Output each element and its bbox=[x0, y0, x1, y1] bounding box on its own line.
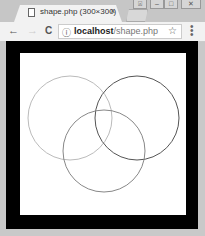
close-icon: ✕ bbox=[182, 0, 200, 8]
circle-medium bbox=[63, 110, 145, 192]
forward-icon[interactable]: → bbox=[27, 24, 38, 36]
back-icon[interactable]: ← bbox=[8, 24, 19, 36]
address-bar[interactable]: ⓘ localhost/shape.php ☆ bbox=[58, 24, 182, 39]
reload-icon[interactable]: C bbox=[45, 25, 52, 36]
new-tab-button[interactable] bbox=[126, 9, 148, 22]
circles-svg bbox=[20, 53, 186, 215]
tab-title: shape.php (300×300) bbox=[40, 7, 116, 16]
browser-toolbar: ← → C ⓘ localhost/shape.php ☆ ••• bbox=[0, 22, 205, 42]
url-text[interactable]: localhost/shape.php bbox=[74, 26, 158, 36]
page-icon bbox=[28, 8, 35, 17]
close-button[interactable]: ✕ bbox=[181, 0, 201, 9]
tab-shape-php[interactable]: shape.php (300×300) × bbox=[14, 5, 122, 22]
title-bar: shape.php (300×300) × ⍓ – □ ✕ bbox=[0, 0, 205, 22]
page-viewport bbox=[6, 41, 198, 229]
minimize-button[interactable]: – bbox=[150, 0, 164, 9]
circle-light bbox=[28, 76, 112, 160]
url-host: localhost bbox=[74, 26, 114, 36]
user-button[interactable]: ⍓ bbox=[133, 0, 147, 9]
bookmark-star-icon[interactable]: ☆ bbox=[168, 25, 177, 36]
tab-close-icon[interactable]: × bbox=[110, 6, 115, 16]
maximize-icon: □ bbox=[165, 0, 177, 8]
minimize-icon: – bbox=[151, 0, 163, 8]
user-icon: ⍓ bbox=[134, 0, 146, 8]
drawing-canvas bbox=[20, 53, 186, 215]
info-icon[interactable]: ⓘ bbox=[62, 26, 71, 39]
url-path: /shape.php bbox=[114, 26, 159, 36]
circle-dark bbox=[95, 76, 179, 160]
menu-icon[interactable]: ••• bbox=[190, 25, 194, 37]
maximize-button[interactable]: □ bbox=[164, 0, 178, 9]
